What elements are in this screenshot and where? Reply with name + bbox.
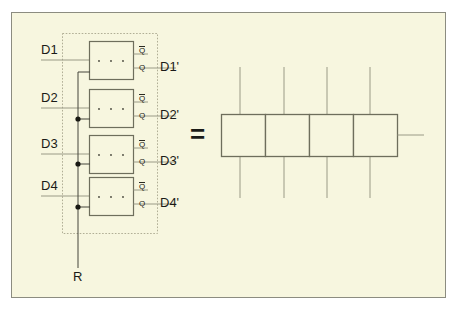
right-cell-2	[266, 115, 310, 157]
reset-label: R	[73, 270, 82, 283]
box-mark-dot	[110, 108, 112, 110]
equals-sign: =	[190, 121, 205, 147]
q-label-3: Q	[139, 158, 145, 166]
figure-canvas: D1 D2 D3 D4 D1' D2' D3' D4' Q Q Q Q Q Q …	[0, 0, 457, 311]
junction-dot	[75, 204, 80, 209]
output-label-d4-prime: D4'	[160, 196, 179, 209]
input-label-d4: D4	[41, 179, 58, 192]
output-label-d2-prime: D2'	[160, 108, 179, 121]
qbar-text-4: Q	[139, 182, 145, 191]
box-mark-dot	[122, 60, 124, 62]
input-label-d2: D2	[41, 91, 58, 104]
input-label-d3: D3	[41, 137, 58, 150]
right-cell-3	[310, 115, 354, 157]
junction-dot	[75, 161, 80, 166]
qbar-text-1: Q	[139, 46, 145, 55]
box-mark-dot	[98, 60, 100, 62]
junction-dot	[75, 116, 80, 121]
box-mark-dot	[122, 196, 124, 198]
box-mark-dot	[122, 108, 124, 110]
qbar-label-1: Q	[139, 46, 145, 55]
right-cell-4	[354, 115, 398, 157]
qbar-label-2: Q	[139, 94, 145, 103]
box-mark-dot	[110, 154, 112, 156]
output-label-d3-prime: D3'	[160, 154, 179, 167]
input-label-d1: D1	[41, 43, 58, 56]
box-mark-dot	[98, 196, 100, 198]
box-mark-dot	[110, 196, 112, 198]
qbar-text-2: Q	[139, 94, 145, 103]
qbar-label-4: Q	[139, 182, 145, 191]
qbar-text-3: Q	[139, 140, 145, 149]
q-label-1: Q	[139, 64, 145, 72]
q-label-2: Q	[139, 112, 145, 120]
box-mark-dot	[122, 154, 124, 156]
right-cell-1	[222, 115, 266, 157]
box-mark-dot	[98, 154, 100, 156]
box-mark-dot	[98, 108, 100, 110]
circuit-diagram	[0, 0, 457, 311]
q-label-4: Q	[139, 200, 145, 208]
output-label-d1-prime: D1'	[160, 60, 179, 73]
qbar-label-3: Q	[139, 140, 145, 149]
box-mark-dot	[110, 60, 112, 62]
